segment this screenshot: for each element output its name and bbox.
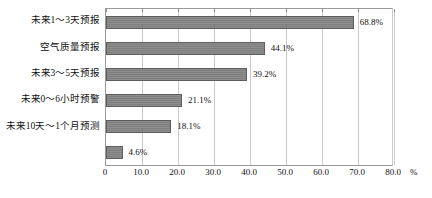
category-label: 空气质量预报	[40, 43, 100, 53]
x-axis: 010.020.030.040.050.060.070.080.0	[105, 168, 393, 182]
plot-area: 68.8%44.1%39.2%21.1%18.1%4.6%	[105, 8, 393, 166]
bar-value-label: 18.1%	[177, 122, 200, 131]
x-tick-label: 40.0	[241, 168, 257, 177]
x-tick-label: 10.0	[133, 168, 149, 177]
x-tick-label: 80.0	[385, 168, 401, 177]
category-label-row: 未来0～6小时预警	[0, 87, 104, 113]
x-tick-mark	[394, 9, 395, 12]
category-label: 未来1～3天预报	[31, 16, 101, 26]
x-tick-label: 30.0	[205, 168, 221, 177]
bar	[106, 120, 171, 133]
category-label-row: 未来3～5天预报	[0, 61, 104, 87]
bar-row: 4.6%	[106, 139, 392, 165]
bar-value-label: 4.6%	[129, 148, 148, 157]
x-tick-label: 20.0	[169, 168, 185, 177]
category-label: 未来10天～1个月预测	[6, 122, 100, 132]
bar	[106, 16, 354, 29]
bar	[106, 146, 123, 159]
gridline	[394, 9, 395, 165]
category-label: 未来3～5天预报	[31, 69, 101, 79]
bar-value-label: 68.8%	[360, 18, 383, 27]
category-label: 未来0～6小时预警	[21, 95, 101, 105]
x-tick-label: 60.0	[313, 168, 329, 177]
x-tick-label: 0	[103, 168, 108, 177]
bar-value-label: 44.1%	[271, 44, 294, 53]
category-label-row	[0, 140, 104, 166]
category-label-row: 未来10天～1个月预测	[0, 113, 104, 139]
x-tick-label: 50.0	[277, 168, 293, 177]
bar	[106, 68, 247, 81]
bar-row: 68.8%	[106, 9, 392, 35]
bar-row: 18.1%	[106, 113, 392, 139]
category-axis: 未来1～3天预报空气质量预报未来3～5天预报未来0～6小时预警未来10天～1个月…	[0, 8, 104, 166]
x-tick-label: 70.0	[349, 168, 365, 177]
bars-layer: 68.8%44.1%39.2%21.1%18.1%4.6%	[106, 9, 392, 165]
bar-row: 21.1%	[106, 87, 392, 113]
bar-chart: 未来1～3天预报空气质量预报未来3～5天预报未来0～6小时预警未来10天～1个月…	[0, 0, 432, 198]
bar	[106, 42, 265, 55]
category-label-row: 未来1～3天预报	[0, 8, 104, 34]
bar-row: 39.2%	[106, 61, 392, 87]
category-label-row: 空气质量预报	[0, 34, 104, 60]
bar-row: 44.1%	[106, 35, 392, 61]
bar	[106, 94, 182, 107]
x-axis-unit-label: %	[410, 168, 418, 177]
bar-value-label: 21.1%	[188, 96, 211, 105]
bar-value-label: 39.2%	[253, 70, 276, 79]
